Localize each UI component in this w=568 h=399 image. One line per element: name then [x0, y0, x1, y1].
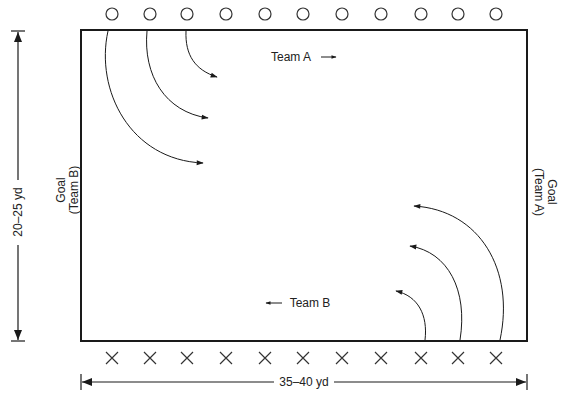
team-b-player-cross-icon — [375, 352, 387, 364]
team-b-players — [106, 352, 502, 364]
team-b-player-cross-icon — [181, 352, 193, 364]
team-a-player-circle-icon — [452, 8, 464, 20]
team-b-player-cross-icon — [452, 352, 464, 364]
right-goal-line2: (Team A) — [532, 168, 545, 216]
team-a-players — [106, 8, 502, 20]
run-arc-arrow-icon — [186, 31, 217, 77]
team-a-run-arcs — [105, 31, 217, 163]
left-goal-line2: (Team B) — [68, 166, 81, 215]
team-b-player-cross-icon — [220, 352, 232, 364]
team-a-player-circle-icon — [336, 8, 348, 20]
team-a-player-circle-icon — [106, 8, 118, 20]
team-a-player-circle-icon — [181, 8, 193, 20]
team-a-player-circle-icon — [415, 8, 427, 20]
run-arc-arrow-icon — [414, 206, 503, 340]
team-a-player-circle-icon — [220, 8, 232, 20]
team-b-player-cross-icon — [259, 352, 271, 364]
team-b-player-cross-icon — [106, 352, 118, 364]
team-a-player-circle-icon — [259, 8, 271, 20]
team-b-player-cross-icon — [144, 352, 156, 364]
height-dimension-label: 20–25 yd — [12, 184, 25, 239]
playing-field — [81, 30, 527, 341]
team-b-player-cross-icon — [415, 352, 427, 364]
left-goal-label: Goal (Team B) — [55, 166, 81, 215]
team-b-player-cross-icon — [336, 352, 348, 364]
team-a-label: Team A — [271, 51, 311, 64]
right-goal-line1: Goal — [545, 168, 558, 216]
team-b-label: Team B — [290, 297, 331, 310]
run-arc-arrow-icon — [396, 291, 426, 340]
team-b-player-cross-icon — [297, 352, 309, 364]
run-arc-arrow-icon — [147, 31, 208, 118]
team-b-run-arcs — [396, 206, 503, 340]
team-a-player-circle-icon — [490, 8, 502, 20]
width-dimension-label: 35–40 yd — [276, 376, 331, 389]
right-goal-label: Goal (Team A) — [532, 168, 558, 216]
team-a-player-circle-icon — [297, 8, 309, 20]
run-arc-arrow-icon — [410, 246, 462, 340]
team-a-player-circle-icon — [144, 8, 156, 20]
team-a-player-circle-icon — [375, 8, 387, 20]
team-b-player-cross-icon — [490, 352, 502, 364]
